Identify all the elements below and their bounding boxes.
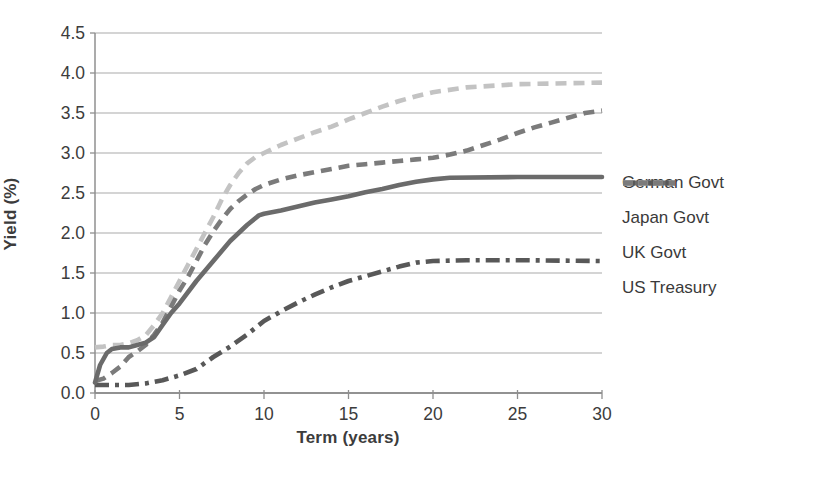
yield-curve-chart: 0.00.51.01.52.02.53.03.54.04.50510152025… [0, 0, 823, 478]
legend-label: US Treasury [622, 278, 716, 298]
y-tick-label: 4.0 [61, 63, 86, 83]
y-tick-label: 1.5 [61, 263, 85, 283]
y-tick-label: 2.5 [61, 183, 85, 203]
y-tick-label: 0.5 [61, 343, 85, 363]
y-tick-label: 4.5 [61, 23, 85, 43]
y-tick-label: 1.0 [61, 303, 86, 323]
x-tick-label: 5 [175, 404, 185, 424]
x-tick-label: 25 [508, 404, 527, 424]
y-tick-label: 3.5 [61, 103, 85, 123]
x-tick-label: 20 [423, 404, 443, 424]
x-tick-label: 15 [339, 404, 358, 424]
legend-item-japan-govt: Japan Govt [622, 207, 724, 229]
y-tick-label: 0.0 [61, 383, 86, 403]
legend-swatch-dashed-line [622, 172, 676, 194]
legend-label: UK Govt [622, 243, 686, 263]
x-tick-label: 10 [254, 404, 274, 424]
y-tick-label: 2.0 [61, 223, 86, 243]
x-tick-label: 30 [592, 404, 612, 424]
legend-item-us-treasury: US Treasury [622, 277, 724, 299]
series-line-us-treasury [95, 111, 602, 381]
legend: German GovtJapan GovtUK GovtUS Treasury [622, 172, 724, 299]
y-axis-title: Yield (%) [1, 139, 21, 289]
series-line-japan-govt [95, 260, 602, 385]
legend-label: Japan Govt [622, 208, 709, 228]
y-tick-label: 3.0 [61, 143, 86, 163]
legend-item-uk-govt: UK Govt [622, 242, 724, 264]
x-tick-label: 0 [90, 404, 100, 424]
x-axis-title: Term (years) [248, 428, 448, 448]
